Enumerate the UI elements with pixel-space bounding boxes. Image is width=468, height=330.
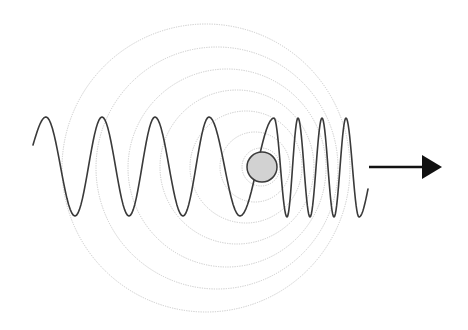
doppler-diagram: Doppler effect: moving wave source movin… [0,0,468,330]
wavefront-circle [190,111,302,223]
diagram-canvas [0,0,468,330]
wave-line [33,117,368,217]
wavefront-circles [62,24,350,312]
wavefront-circle [128,69,326,267]
arrow-head [422,155,442,179]
wavefront-circle [62,24,350,312]
wavefront-circle [160,90,314,244]
direction-arrow-icon [369,155,442,179]
moving-source-ball [247,152,277,182]
